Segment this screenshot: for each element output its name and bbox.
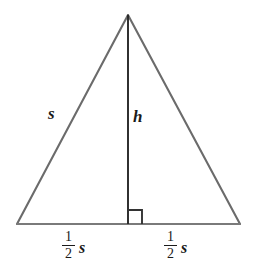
- fraction-numerator: 1: [63, 230, 74, 244]
- triangle-right-side: [128, 15, 240, 224]
- label-altitude-h: h: [133, 108, 142, 125]
- fraction-one-half-right: 1 2: [164, 230, 177, 262]
- label-left-side-s: s: [48, 105, 55, 122]
- fraction-numerator: 1: [165, 230, 176, 244]
- right-angle-icon: [128, 210, 142, 224]
- triangle-diagram: [0, 0, 256, 274]
- fraction-variable-left: s: [79, 239, 85, 257]
- fraction-one-half-left: 1 2: [62, 230, 75, 262]
- label-base-right-half: 1 2 s: [164, 230, 187, 262]
- label-base-left-half: 1 2 s: [62, 230, 85, 262]
- fraction-variable-right: s: [181, 239, 187, 257]
- fraction-denominator: 2: [63, 247, 74, 261]
- figure-canvas: s h 1 2 s 1 2 s: [0, 0, 256, 274]
- fraction-denominator: 2: [165, 247, 176, 261]
- triangle-left-side: [17, 15, 128, 224]
